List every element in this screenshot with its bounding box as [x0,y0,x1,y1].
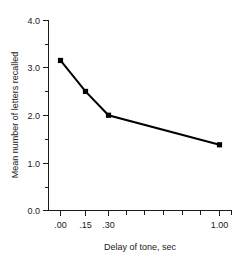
x-tick-label-100: 1.00 [211,220,229,230]
y-tick-label-4: 4.0 [27,16,40,26]
y-tick-label-0: 0.0 [27,206,40,216]
line-chart: 4.0 3.0 2.0 1.0 0.0 .00 .15 .30 1.00 [0,0,244,260]
data-series-markers [58,58,222,147]
x-axis-tick-labels: .00 .15 .30 1.00 [54,220,228,230]
data-point-marker [58,58,63,63]
y-tick-label-1: 1.0 [27,159,40,169]
x-tick-label-00: .00 [54,220,67,230]
data-point-marker [217,142,222,147]
y-tick-label-2: 2.0 [27,111,40,121]
data-point-marker [83,89,88,94]
chart-figure: 4.0 3.0 2.0 1.0 0.0 .00 .15 .30 1.00 [0,0,244,260]
y-axis-major-ticks [43,21,49,211]
x-tick-label-30: .30 [102,220,115,230]
data-point-marker [106,113,111,118]
x-axis-ticks [61,211,232,217]
y-tick-label-3: 3.0 [27,63,40,73]
x-axis-title: Delay of tone, sec [104,242,177,252]
y-axis-tick-labels: 4.0 3.0 2.0 1.0 0.0 [27,16,40,216]
x-tick-label-15: .15 [79,220,92,230]
y-axis-title: Mean number of letters recalled [10,52,20,179]
data-series-line [61,60,220,144]
